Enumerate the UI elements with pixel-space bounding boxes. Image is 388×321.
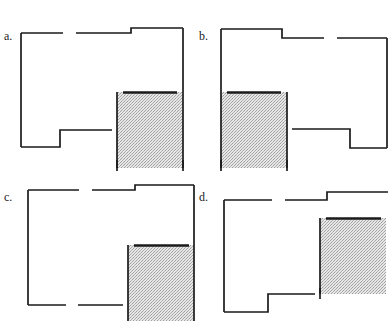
- panel-b-label: b.: [199, 30, 208, 42]
- panel-c-shaded-room: [128, 245, 194, 321]
- panel-b: [221, 29, 387, 171]
- panel-d-label: d.: [199, 191, 208, 203]
- panel-a-shaded-room: [117, 92, 183, 168]
- panel-b-shaded-room: [221, 92, 287, 168]
- floor-plan-svg: [0, 0, 388, 321]
- panel-d: [224, 192, 388, 312]
- panel-a: [21, 28, 183, 171]
- panel-c-label: c.: [4, 191, 12, 203]
- panel-a-label: a.: [4, 30, 12, 42]
- floor-plan-figure: a. b. c. d.: [0, 0, 388, 321]
- panel-c: [28, 185, 194, 321]
- panel-d-shaded-room: [320, 218, 386, 294]
